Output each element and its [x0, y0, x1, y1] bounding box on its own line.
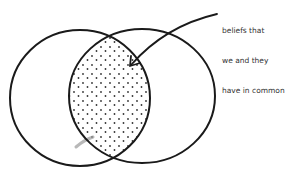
intersection-annotation: beliefs that we and they have in common: [222, 6, 285, 106]
arrow-icon: [130, 14, 217, 66]
annotation-line-1: beliefs that: [222, 26, 285, 36]
annotation-line-2: we and they: [222, 56, 285, 66]
annotation-line-3: have in common: [222, 86, 285, 96]
